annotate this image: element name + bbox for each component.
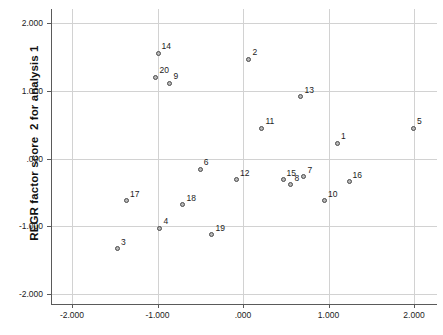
data-point-label: 1 bbox=[341, 132, 346, 141]
data-point-label: 7 bbox=[307, 166, 312, 175]
data-point-label: 16 bbox=[353, 171, 362, 180]
data-point[interactable] bbox=[281, 177, 286, 182]
data-point-label: 19 bbox=[215, 224, 224, 233]
y-tick-mark bbox=[47, 159, 51, 160]
y-tick-mark bbox=[47, 294, 51, 295]
data-point[interactable] bbox=[347, 179, 352, 184]
y-tick-label: 1.000 bbox=[0, 86, 43, 96]
data-point[interactable] bbox=[156, 51, 161, 56]
gridline-vertical bbox=[329, 9, 330, 304]
data-point-label: 11 bbox=[265, 117, 274, 126]
data-point[interactable] bbox=[234, 177, 239, 182]
data-point[interactable] bbox=[298, 94, 303, 99]
y-axis-title: REGR factor score 2 for analysis 1 bbox=[28, 13, 40, 273]
data-point-label: 20 bbox=[159, 66, 168, 75]
x-tick-mark bbox=[414, 304, 415, 308]
data-point[interactable] bbox=[335, 141, 340, 146]
scatter-chart: REGR factor score 2 for analysis 1 12345… bbox=[0, 0, 443, 335]
data-point[interactable] bbox=[288, 182, 293, 187]
gridline-horizontal bbox=[52, 159, 437, 160]
data-point-label: 3 bbox=[121, 238, 126, 247]
data-point-label: 6 bbox=[204, 158, 209, 167]
data-point-label: 17 bbox=[130, 190, 139, 199]
data-point-label: 14 bbox=[162, 42, 171, 51]
data-point-label: 12 bbox=[240, 169, 249, 178]
data-point[interactable] bbox=[301, 174, 306, 179]
data-point[interactable] bbox=[209, 232, 214, 237]
x-tick-label: .000 bbox=[213, 310, 273, 320]
y-tick-label: -1.000 bbox=[0, 221, 43, 231]
y-tick-label: -2.000 bbox=[0, 289, 43, 299]
data-point[interactable] bbox=[115, 246, 120, 251]
gridline-horizontal bbox=[52, 91, 437, 92]
gridline-horizontal bbox=[52, 23, 437, 24]
data-point[interactable] bbox=[124, 198, 129, 203]
data-point[interactable] bbox=[259, 126, 264, 131]
x-tick-mark bbox=[158, 304, 159, 308]
data-point[interactable] bbox=[157, 226, 162, 231]
x-tick-label: -1.000 bbox=[128, 310, 188, 320]
x-tick-label: -2.000 bbox=[42, 310, 102, 320]
gridline-vertical bbox=[414, 9, 415, 304]
gridline-vertical bbox=[72, 9, 73, 304]
y-axis-line bbox=[51, 9, 52, 305]
data-point[interactable] bbox=[198, 167, 203, 172]
data-point-label: 4 bbox=[163, 217, 168, 226]
gridline-vertical bbox=[243, 9, 244, 304]
y-tick-mark bbox=[47, 226, 51, 227]
x-axis-line bbox=[51, 304, 437, 305]
x-tick-label: 1.000 bbox=[299, 310, 359, 320]
data-point[interactable] bbox=[180, 202, 185, 207]
y-tick-label: 2.000 bbox=[0, 18, 43, 28]
data-point-label: 9 bbox=[173, 72, 178, 81]
y-tick-mark bbox=[47, 23, 51, 24]
x-tick-mark bbox=[243, 304, 244, 308]
data-point[interactable] bbox=[411, 126, 416, 131]
data-point[interactable] bbox=[322, 198, 327, 203]
y-tick-label: .000 bbox=[0, 154, 43, 164]
data-point-label: 15 bbox=[287, 169, 296, 178]
data-point[interactable] bbox=[246, 57, 251, 62]
data-point-label: 2 bbox=[252, 48, 257, 57]
x-tick-mark bbox=[329, 304, 330, 308]
data-point[interactable] bbox=[167, 81, 172, 86]
gridline-horizontal bbox=[52, 294, 437, 295]
x-tick-mark bbox=[72, 304, 73, 308]
data-point-label: 5 bbox=[417, 117, 422, 126]
data-point-label: 13 bbox=[304, 86, 313, 95]
data-point-label: 10 bbox=[328, 190, 337, 199]
plot-area: 1234567891011121314151617181920 bbox=[51, 9, 437, 305]
data-point-label: 18 bbox=[186, 194, 195, 203]
x-tick-label: 2.000 bbox=[384, 310, 443, 320]
gridline-horizontal bbox=[52, 226, 437, 227]
y-tick-mark bbox=[47, 91, 51, 92]
